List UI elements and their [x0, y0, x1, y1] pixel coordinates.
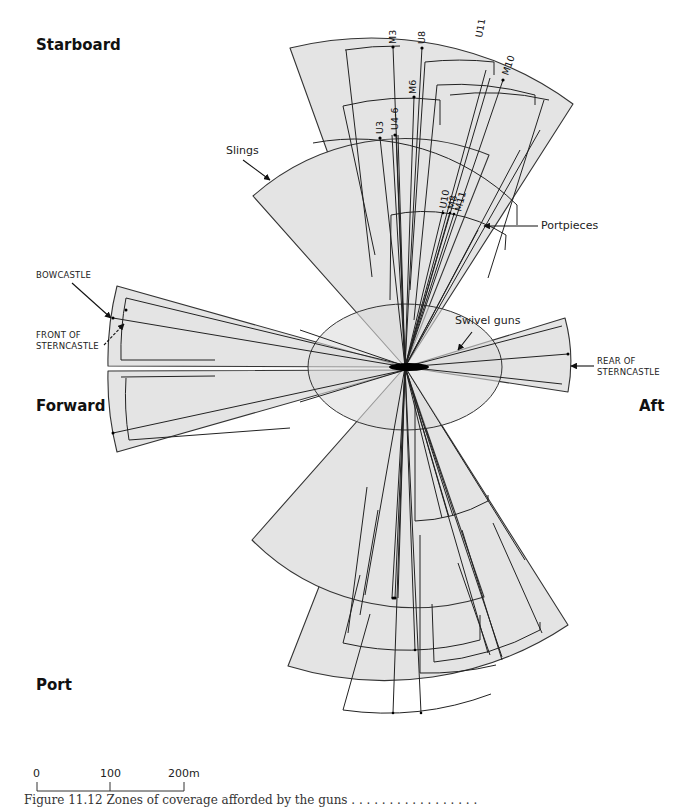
label-swivel-guns: Swivel guns — [455, 314, 521, 327]
gun-label-u8: U8 — [416, 31, 427, 44]
gun-label-u3: U3 — [374, 121, 385, 134]
label-portpieces: Portpieces — [541, 219, 598, 232]
slings-arrow — [243, 160, 270, 180]
label-front-of-sterncastle: FRONT OF STERNCASTLE — [36, 330, 99, 352]
gun-label-m6: M6 — [407, 80, 418, 94]
label-bowcastle: BOWCASTLE — [36, 270, 91, 281]
scale-bar: 0 100 200m — [36, 767, 226, 787]
direction-starboard: Starboard — [36, 36, 121, 54]
figure-caption: Figure 11.12 Zones of coverage afforded … — [24, 793, 477, 807]
direction-port: Port — [36, 676, 72, 694]
ship-gun-cluster — [389, 363, 429, 371]
label-rear-of-sterncastle: REAR OF STERNCASTLE — [597, 356, 660, 378]
gun-label-u11: U11 — [473, 18, 487, 39]
gun-label-m3: M3 — [387, 30, 398, 44]
bowcastle-arrow — [72, 283, 111, 318]
gun-label-u4-6: U4-6 — [389, 108, 400, 130]
direction-forward: Forward — [36, 397, 105, 415]
label-slings: Slings — [226, 144, 259, 157]
direction-aft: Aft — [639, 397, 664, 415]
